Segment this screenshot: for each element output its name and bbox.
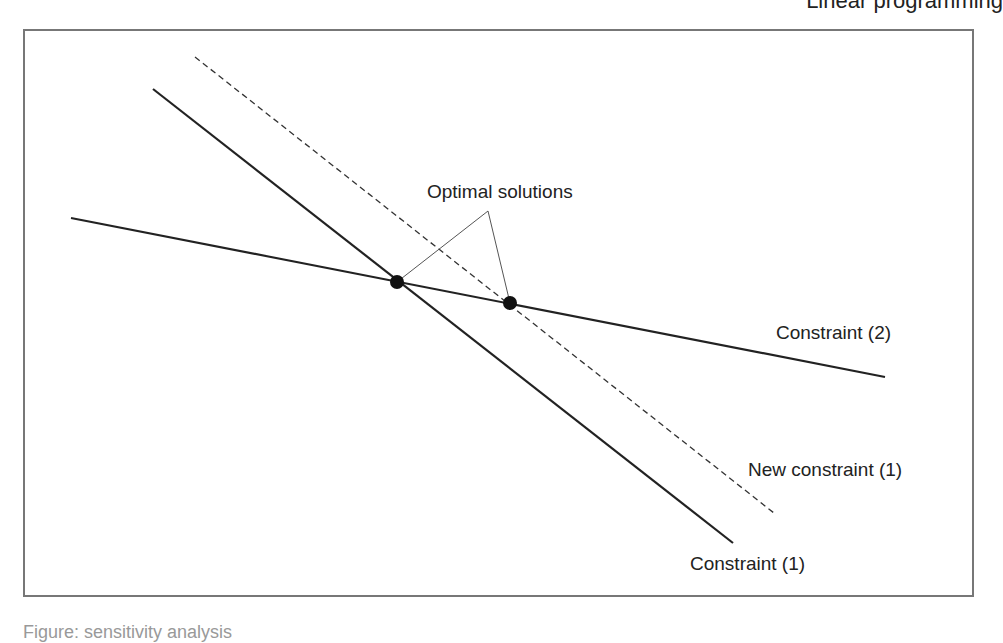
constraint-2-line <box>71 218 885 377</box>
constraint-1-line <box>153 89 733 543</box>
new-constraint-1-line <box>195 57 774 513</box>
optimal-pointer-lines <box>397 211 510 303</box>
constraint-1-label: Constraint (1) <box>690 553 805 575</box>
optimal-point-2 <box>503 296 517 310</box>
figure-caption: Figure: sensitivity analysis <box>23 622 232 643</box>
new-constraint-1-label: New constraint (1) <box>748 459 902 481</box>
constraint-2-label: Constraint (2) <box>776 322 891 344</box>
optimal-solutions-label: Optimal solutions <box>427 181 573 203</box>
optimal-point-1 <box>390 275 404 289</box>
